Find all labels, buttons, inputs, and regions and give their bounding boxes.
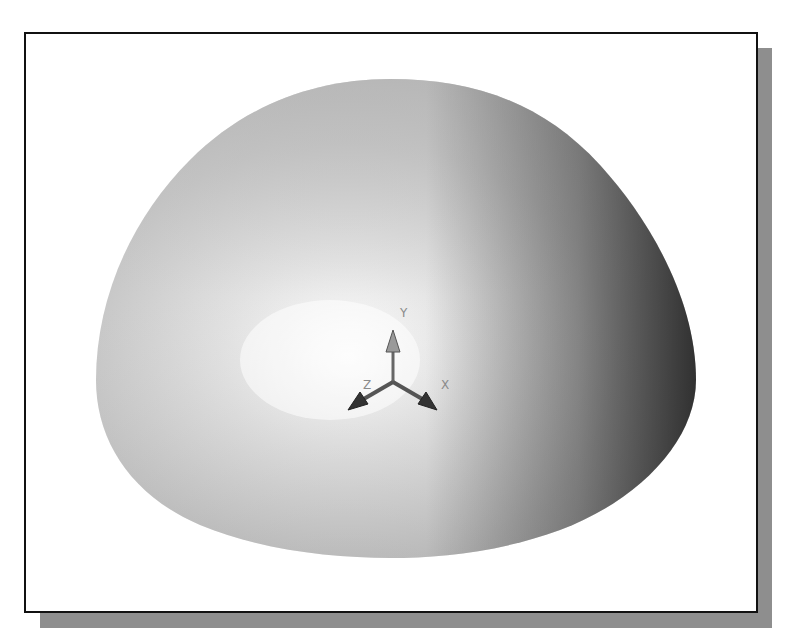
x-axis-label: X: [441, 378, 449, 392]
y-axis-label: Y: [399, 306, 408, 320]
dome-solid[interactable]: [90, 75, 700, 565]
graphics-viewport[interactable]: Y Z X: [0, 0, 796, 644]
z-axis-label: Z: [363, 378, 371, 392]
